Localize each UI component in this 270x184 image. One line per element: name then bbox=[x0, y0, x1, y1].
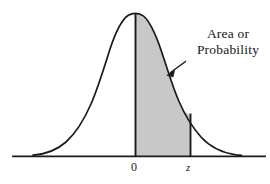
area-probability-annotation: Area or Probability bbox=[186, 26, 270, 59]
annotation-arrow-icon bbox=[167, 62, 186, 78]
axis-label-zero: 0 bbox=[131, 161, 137, 173]
normal-distribution-figure: Area or Probability 0 z bbox=[0, 0, 270, 184]
axis-label-z: z bbox=[186, 162, 190, 173]
shaded-probability-area bbox=[136, 14, 191, 156]
annotation-line-1: Area or bbox=[186, 26, 270, 42]
annotation-line-2: Probability bbox=[186, 42, 270, 58]
